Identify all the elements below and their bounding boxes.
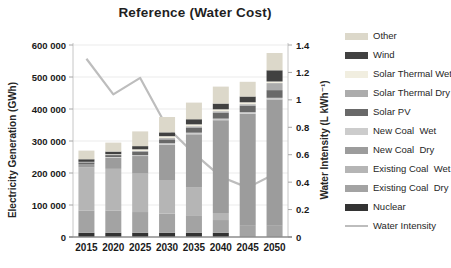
legend-line-swatch-water-intensity (345, 225, 368, 227)
legend-label-nuclear: Nuclear (373, 200, 406, 214)
bar-segment (186, 134, 202, 187)
legend-swatch-solar-pv (345, 109, 368, 116)
legend-swatch-wind (345, 52, 368, 59)
legend-swatch-existing-coal-wet (345, 166, 368, 173)
bar-segment (240, 104, 256, 106)
legend-item-solar-thermal-dry: Solar Thermal Dry (345, 86, 449, 100)
bar-segment (267, 70, 283, 81)
bar-segment (78, 210, 94, 232)
bar-segment (240, 102, 256, 104)
left-tick-label: 600 000 (32, 40, 66, 51)
x-tick-label: 2020 (102, 242, 125, 253)
bar-segment (213, 213, 229, 220)
legend-swatch-existing-coal-dry (345, 185, 368, 192)
bar-segment (240, 106, 256, 112)
bar-segment (78, 164, 94, 167)
legend-item-new-coal-dry: New Coal Dry (345, 143, 449, 157)
right-tick-label: 0.6 (296, 149, 309, 160)
bar-segment (159, 117, 175, 132)
bar-segment (132, 146, 148, 149)
x-tick-label: 2030 (156, 242, 179, 253)
legend-swatch-new-coal-wet (345, 128, 368, 135)
bar-segment (78, 159, 94, 162)
bar-segment (159, 132, 175, 136)
x-tick-label: 2050 (263, 242, 286, 253)
legend-item-existing-coal-wet: Existing Coal Wet (345, 162, 449, 176)
bar-segment (105, 154, 121, 155)
bar-segment (159, 143, 175, 145)
bar-segment (78, 151, 94, 160)
legend-label-other: Other (373, 29, 397, 43)
bar-segment (132, 155, 148, 156)
bar-segment (267, 98, 283, 100)
left-tick-label: 400 000 (32, 104, 66, 115)
x-tick-label: 2035 (183, 242, 206, 253)
bar-segment (213, 111, 229, 113)
bar-segment (186, 126, 202, 127)
legend-swatch-other (345, 33, 368, 40)
bar-segment (186, 187, 202, 215)
bar-segment (240, 226, 256, 237)
bar-segment (186, 128, 202, 133)
bar-segment (78, 162, 94, 164)
legend-label-wind: Wind (373, 48, 395, 62)
legend-label-new-coal-dry: New Coal Dry (373, 143, 434, 157)
bar-segment (186, 124, 202, 126)
left-tick-label: 100 000 (32, 200, 66, 211)
x-tick-label: 2025 (129, 242, 152, 253)
legend-label-solar-thermal-dry: Solar Thermal Dry (373, 86, 450, 100)
bar-segment (213, 220, 229, 233)
legend-label-existing-coal-wet: Existing Coal Wet (373, 162, 450, 176)
legend-item-new-coal-wet: New Coal Wet (345, 124, 449, 138)
bar-segment (159, 138, 175, 139)
x-tick-label: 2015 (75, 242, 98, 253)
left-tick-label: 0 (61, 232, 66, 243)
x-tick-label: 2040 (210, 242, 233, 253)
legend-label-existing-coal-dry: Existing Coal Dry (373, 181, 449, 195)
legend-swatch-new-coal-dry (345, 147, 368, 154)
bar-segment (240, 112, 256, 114)
bar-segment (267, 83, 283, 90)
bar-segment (213, 119, 229, 121)
legend-swatch-solar-thermal-dry (345, 90, 368, 97)
legend-item-wind: Wind (345, 48, 449, 62)
bar-segment (105, 169, 121, 211)
bar-segment (186, 133, 202, 135)
bar-segment (132, 131, 148, 146)
legend-item-solar-pv: Solar PV (345, 105, 449, 119)
legend-item-existing-coal-dry: Existing Coal Dry (345, 181, 449, 195)
legend-item-other: Other (345, 29, 449, 43)
bar-segment (240, 82, 256, 97)
bar-segment (240, 114, 256, 226)
bar-segment (213, 109, 229, 111)
bar-segment (186, 119, 202, 124)
bar-segment (105, 158, 121, 169)
bar-segment (132, 174, 148, 212)
bar-segment (159, 136, 175, 138)
right-tick-label: 1.4 (296, 40, 310, 51)
right-tick-label: 0 (296, 232, 301, 243)
bar-segment (267, 81, 283, 83)
bar-segment (240, 97, 256, 103)
right-tick-label: 0.4 (296, 177, 310, 188)
bar-segment (213, 104, 229, 110)
legend-swatch-solar-thermal-wet (345, 71, 368, 78)
bar-segment (78, 162, 94, 163)
x-tick-label: 2045 (237, 242, 260, 253)
chart-canvas: Reference (Water Cost) Electricity Gener… (0, 0, 451, 268)
bar-segment (78, 167, 94, 210)
legend-item-solar-thermal-wet: Solar Thermal Wet (345, 67, 449, 81)
bar-segment (105, 155, 121, 157)
legend-item-nuclear: Nuclear (345, 200, 449, 214)
left-tick-label: 500 000 (32, 72, 66, 83)
bar-segment (132, 151, 148, 152)
bar-segment (132, 152, 148, 155)
bar-segment (186, 215, 202, 233)
right-tick-label: 1.2 (296, 67, 309, 78)
bar-segment (105, 152, 121, 155)
legend-label-water-intensity: Water Intensity (373, 219, 436, 233)
left-tick-label: 300 000 (32, 136, 66, 147)
bar-segment (105, 157, 121, 158)
right-tick-label: 0.2 (296, 204, 309, 215)
bar-segment (267, 53, 283, 70)
